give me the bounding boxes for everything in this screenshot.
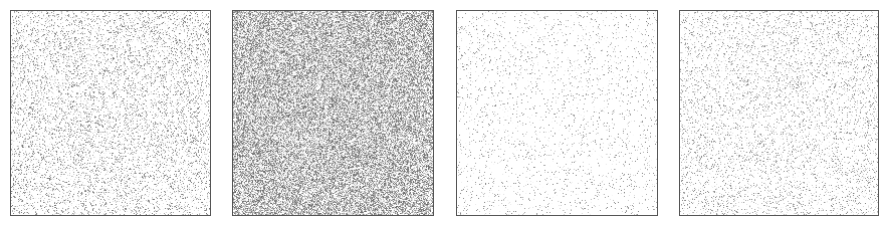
noise-panel-1: [10, 10, 211, 216]
noise-panel-3: [456, 10, 658, 216]
noise-texture: [680, 11, 878, 215]
noise-panel-4: [679, 10, 879, 216]
noise-texture: [11, 11, 210, 215]
noise-panel-2: [232, 10, 434, 216]
noise-texture: [233, 11, 433, 215]
noise-texture: [457, 11, 657, 215]
